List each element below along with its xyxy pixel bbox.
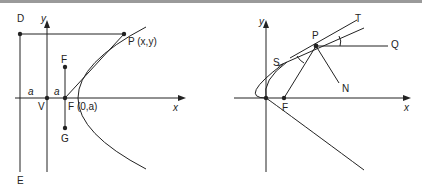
label-T: T (355, 13, 361, 24)
label-V: V (38, 101, 45, 112)
right-parabola (255, 64, 364, 170)
label-P-right: P (312, 30, 319, 41)
label-E: E (17, 175, 24, 186)
label-Q: Q (391, 39, 399, 50)
label-a-right: a (54, 86, 60, 97)
focal-radius (65, 34, 124, 98)
angle-arc-top (339, 36, 341, 46)
label-x-right: x (403, 102, 410, 113)
label-y-left: y (40, 13, 47, 24)
label-F-focus: F (0,a) (68, 101, 97, 112)
label-G: G (61, 133, 69, 144)
label-S: S (273, 57, 280, 68)
parabola-figures: D E y x P (x,y) F G V F (0,a) a a y x P … (0, 0, 422, 194)
line-PF (284, 46, 316, 98)
label-y-right: y (258, 16, 265, 27)
label-x-left: x (172, 102, 179, 113)
tangent-line-T (290, 20, 357, 58)
angle-arc-bottom (297, 56, 304, 63)
left-x-arrow (178, 95, 186, 101)
label-D: D (17, 13, 24, 24)
label-a-left: a (28, 86, 34, 97)
tangent-line-S (278, 28, 364, 66)
right-x-arrow (403, 95, 411, 101)
label-N: N (342, 83, 349, 94)
label-F-upper: F (61, 54, 67, 65)
normal-PN (316, 46, 339, 83)
label-F-right: F (282, 102, 288, 113)
label-P-left: P (x,y) (128, 36, 157, 47)
